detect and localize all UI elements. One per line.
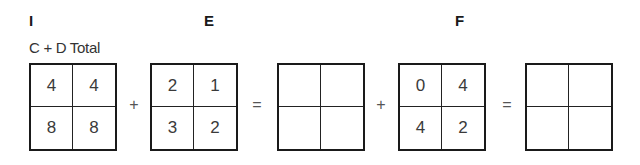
grid-cell: 2 <box>152 65 194 107</box>
grid-cell: 4 <box>400 107 442 149</box>
label-e: E <box>204 12 214 29</box>
grid-cell: 8 <box>73 107 115 149</box>
subtitle-c-d-total: C + D Total <box>29 39 100 56</box>
grid-cell: 0 <box>400 65 442 107</box>
grid-cell-empty[interactable] <box>279 107 321 149</box>
plus-operator: + <box>376 96 385 114</box>
grid-cell: 8 <box>31 107 73 149</box>
grid-cell-empty[interactable] <box>527 107 569 149</box>
label-f: F <box>455 12 464 29</box>
grid-cell-empty[interactable] <box>321 65 363 107</box>
grid-cell-empty[interactable] <box>527 65 569 107</box>
grid-cell-empty[interactable] <box>569 65 611 107</box>
grid-result-1 <box>277 63 365 151</box>
label-i: I <box>29 12 33 29</box>
grid-cell-empty[interactable] <box>569 107 611 149</box>
plus-operator: + <box>129 96 138 114</box>
equals-operator: = <box>502 96 511 114</box>
grid-result-2 <box>525 63 613 151</box>
grid-e: 2 1 3 2 <box>150 63 238 151</box>
grid-cell: 2 <box>442 107 484 149</box>
grid-cell-empty[interactable] <box>321 107 363 149</box>
grid-f: 0 4 4 2 <box>398 63 486 151</box>
grid-cell: 4 <box>442 65 484 107</box>
grid-cell: 1 <box>194 65 236 107</box>
grid-cell: 2 <box>194 107 236 149</box>
equals-operator: = <box>252 96 261 114</box>
grid-cell: 4 <box>73 65 115 107</box>
grid-cell: 4 <box>31 65 73 107</box>
grid-c-d-total: 4 4 8 8 <box>29 63 117 151</box>
grid-cell: 3 <box>152 107 194 149</box>
grid-cell-empty[interactable] <box>279 65 321 107</box>
